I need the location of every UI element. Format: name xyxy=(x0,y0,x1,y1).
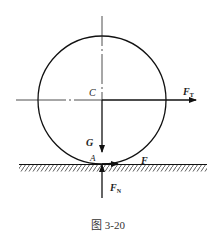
gravity-label: G xyxy=(86,137,94,148)
figure-caption: 图 3-20 xyxy=(91,219,125,231)
normal-force-label: FN xyxy=(109,182,122,194)
contact-point-label: A xyxy=(89,153,96,163)
ground-hatching xyxy=(19,165,207,172)
free-body-diagram: C FT G A F FN 图 3-20 xyxy=(0,0,217,239)
center-label: C xyxy=(89,87,96,98)
tension-label: FT xyxy=(182,86,194,98)
friction-label: F xyxy=(140,155,148,166)
